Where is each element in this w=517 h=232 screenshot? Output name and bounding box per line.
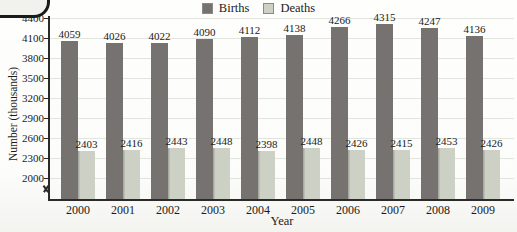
y-axis-tick	[44, 98, 50, 100]
value-label-deaths-2000: 2403	[69, 138, 105, 150]
value-label-deaths-2001: 2416	[114, 137, 150, 149]
y-axis-tick	[44, 138, 50, 140]
value-label-births-2003: 4090	[187, 26, 223, 38]
bar-births-2004	[241, 37, 258, 200]
value-label-births-2000: 4059	[52, 28, 88, 40]
bar-deaths-2005	[303, 148, 320, 200]
bar-deaths-2002	[168, 148, 185, 200]
bar-births-2006	[331, 27, 348, 200]
axis-break-mark	[41, 184, 51, 194]
y-axis-line	[48, 16, 50, 201]
bar-births-2000	[61, 41, 78, 200]
y-axis-tick	[44, 118, 50, 120]
y-axis-tick	[44, 158, 50, 160]
figure-canvas: Births Deaths Number (thousands) 2000230…	[0, 0, 517, 232]
y-axis-tick	[44, 78, 50, 80]
value-label-deaths-2006: 2426	[339, 137, 375, 149]
y-tick-label: 2600	[12, 132, 44, 145]
y-tick-label: 3800	[12, 52, 44, 65]
value-label-births-2005: 4138	[277, 22, 313, 34]
y-tick-label: 2300	[12, 152, 44, 165]
bar-births-2008	[421, 28, 438, 200]
bar-deaths-2003	[213, 148, 230, 200]
y-tick-label: 2900	[12, 112, 44, 125]
value-label-births-2008: 4247	[412, 15, 448, 27]
bar-deaths-2007	[393, 150, 410, 200]
bar-births-2002	[151, 43, 168, 200]
bar-births-2003	[196, 39, 213, 200]
bar-births-2005	[286, 35, 303, 200]
value-label-births-2006: 4266	[322, 14, 358, 26]
y-tick-label: 3200	[12, 92, 44, 105]
bar-births-2007	[376, 24, 393, 200]
bar-deaths-2000	[78, 151, 95, 200]
value-label-births-2004: 4112	[232, 24, 268, 36]
value-label-deaths-2004: 2398	[249, 138, 285, 150]
value-label-deaths-2009: 2426	[474, 137, 510, 149]
y-tick-label: 4100	[12, 32, 44, 45]
value-label-deaths-2007: 2415	[384, 137, 420, 149]
value-label-deaths-2003: 2448	[204, 135, 240, 147]
value-label-deaths-2002: 2443	[159, 135, 195, 147]
y-axis-tick	[44, 38, 50, 40]
bar-deaths-2008	[438, 148, 455, 200]
value-label-births-2007: 4315	[367, 11, 403, 23]
value-label-births-2002: 4022	[142, 30, 178, 42]
y-tick-label: 4400	[12, 12, 44, 25]
y-axis-tick	[44, 58, 50, 60]
y-tick-label: 2000	[12, 172, 44, 185]
bar-deaths-2004	[258, 151, 275, 200]
bar-deaths-2001	[123, 150, 140, 200]
bar-births-2009	[466, 36, 483, 200]
x-axis-title: Year	[50, 214, 514, 229]
x-axis-line	[48, 199, 514, 201]
bar-deaths-2006	[348, 150, 365, 200]
y-axis-tick	[44, 18, 50, 20]
bar-births-2001	[106, 43, 123, 200]
y-tick-label: 3500	[12, 72, 44, 85]
value-label-deaths-2008: 2453	[429, 135, 465, 147]
bar-deaths-2009	[483, 150, 500, 200]
value-label-deaths-2005: 2448	[294, 135, 330, 147]
value-label-births-2009: 4136	[457, 23, 493, 35]
y-axis-tick	[44, 178, 50, 180]
plot-area: 2000230026002900320035003800410044004059…	[0, 0, 517, 232]
value-label-births-2001: 4026	[97, 30, 133, 42]
